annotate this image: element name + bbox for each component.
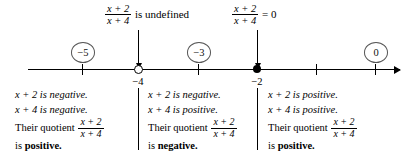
case-conclusion-line: is positive. — [268, 139, 400, 154]
tick-mark-neg-three — [198, 64, 199, 75]
fraction-numerator: x + 2 — [232, 3, 258, 15]
case-line-numerator-sign: x + 2 is negative. — [15, 88, 133, 103]
panel-divider-right — [257, 88, 258, 150]
fraction-quotient: x + 2 x + 4 — [78, 117, 103, 139]
fraction-quotient: x + 2 x + 4 — [211, 117, 236, 139]
tick-mark-zero — [375, 64, 376, 75]
test-value-neg-five: −5 — [71, 42, 95, 63]
annotation-undefined-text: is undefined — [135, 8, 189, 20]
case-line-numerator-sign: x + 2 is negative. — [148, 88, 252, 103]
annotation-equals-zero-text: = 0 — [262, 8, 276, 20]
annotation-equals-zero: x + 2 x + 4 = 0 — [231, 3, 276, 26]
case-conclusion-prefix: is — [15, 140, 25, 151]
case-conclusion-prefix: is — [148, 140, 158, 151]
arrow-down-icon-to-neg-two — [257, 30, 258, 64]
test-value-neg-three: −3 — [187, 42, 211, 63]
open-circle-point-neg-four — [134, 65, 143, 74]
fraction-numerator: x + 2 — [211, 117, 236, 129]
arrow-down-icon-to-neg-four — [138, 30, 139, 64]
tick-mark-neg-five — [82, 64, 83, 75]
fraction-denominator: x + 4 — [105, 15, 131, 26]
case-line-denominator-sign: x + 4 is positive. — [268, 103, 400, 118]
case-quotient-label: Their quotient — [268, 122, 328, 133]
annotation-undefined: x + 2 x + 4 is undefined — [104, 3, 189, 26]
fraction-numerator: x + 2 — [331, 117, 356, 129]
fraction-numerator: x + 2 — [78, 117, 103, 129]
fraction-denominator: x + 4 — [211, 129, 236, 140]
case-panel-middle: x + 2 is negative. x + 4 is positive. Th… — [148, 88, 252, 154]
fraction-numerator: x + 2 — [105, 3, 131, 15]
case-panel-left: x + 2 is negative. x + 4 is negative. Th… — [15, 88, 133, 154]
case-quotient-line: Their quotient x + 2 x + 4 — [15, 117, 133, 139]
case-conclusion-value: positive. — [278, 140, 315, 151]
case-quotient-line: Their quotient x + 2 x + 4 — [148, 117, 252, 139]
fraction-denominator: x + 4 — [331, 129, 356, 140]
case-quotient-label: Their quotient — [148, 122, 208, 133]
tick-mark-neg-one — [316, 64, 317, 75]
fraction-equals-zero: x + 2 x + 4 — [232, 3, 258, 26]
case-conclusion-value: negative. — [158, 140, 198, 151]
case-line-numerator-sign: x + 2 is positive. — [268, 88, 400, 103]
case-conclusion-line: is positive. — [15, 139, 133, 154]
number-line-axis — [28, 69, 400, 70]
fraction-denominator: x + 4 — [232, 15, 258, 26]
case-quotient-label: Their quotient — [15, 122, 75, 133]
test-value-zero: 0 — [364, 42, 388, 63]
axis-label-neg-two: −2 — [246, 76, 268, 87]
case-conclusion-prefix: is — [268, 140, 278, 151]
number-line-sign-chart: x + 2 x + 4 is undefined x + 2 x + 4 = 0… — [0, 0, 411, 155]
fraction-denominator: x + 4 — [78, 129, 103, 140]
case-line-denominator-sign: x + 4 is negative. — [15, 103, 133, 118]
fraction-quotient: x + 2 x + 4 — [331, 117, 356, 139]
fraction-undefined: x + 2 x + 4 — [105, 3, 131, 26]
closed-dot-point-neg-two — [253, 65, 261, 73]
case-conclusion-value: positive. — [25, 140, 62, 151]
case-panel-right: x + 2 is positive. x + 4 is positive. Th… — [268, 88, 400, 154]
panel-divider-left — [138, 88, 139, 150]
axis-label-neg-four: −4 — [127, 76, 149, 87]
case-line-denominator-sign: x + 4 is positive. — [148, 103, 252, 118]
case-quotient-line: Their quotient x + 2 x + 4 — [268, 117, 400, 139]
case-conclusion-line: is negative. — [148, 139, 252, 154]
